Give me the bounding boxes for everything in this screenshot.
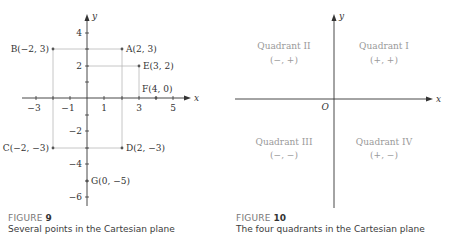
svg-text:1: 1 — [101, 103, 107, 113]
figure-10-caption: FIGURE 10 The four quadrants in the Cart… — [236, 213, 425, 235]
y-axis-label: y — [338, 11, 345, 21]
points — [52, 48, 158, 183]
point-a — [121, 48, 124, 51]
point-b — [52, 48, 55, 51]
svg-text:2: 2 — [76, 61, 82, 71]
svg-text:3: 3 — [136, 103, 142, 113]
point-d — [121, 147, 124, 150]
svg-text:−3: −3 — [27, 103, 41, 113]
quadrant-4-name: Quadrant IV — [356, 137, 413, 147]
svg-text:4: 4 — [76, 28, 82, 38]
figure-label: FIGURE — [8, 213, 43, 223]
y-tick-labels: 4 2 −2 −4 −6 — [69, 28, 83, 202]
point-label-d: D(2, −3) — [126, 143, 165, 153]
svg-text:−6: −6 — [69, 192, 83, 202]
origin-label: O — [322, 102, 330, 112]
quadrant-2-name: Quadrant II — [257, 41, 311, 51]
x-axis-label: x — [194, 93, 199, 103]
y-axis-arrow-icon — [332, 14, 337, 21]
quadrant-1-name: Quadrant I — [359, 41, 409, 51]
guide-lines — [53, 49, 139, 148]
quadrant-4-signs: (+, −) — [370, 150, 398, 160]
svg-text:−4: −4 — [69, 159, 83, 169]
point-c — [52, 147, 55, 150]
point-f — [155, 97, 158, 100]
figure-9-plot: x y −3 −1 1 3 5 — [3, 11, 199, 206]
quadrant-1-signs: (+, +) — [370, 55, 398, 65]
x-axis-label: x — [436, 94, 441, 104]
figure-number: 10 — [273, 213, 286, 223]
y-axis-label: y — [91, 11, 98, 21]
point-label-a: A(2, 3) — [125, 44, 157, 54]
point-label-f: F(4, 0) — [142, 84, 172, 94]
figure-number: 9 — [45, 213, 51, 223]
point-label-e: E(3, 2) — [143, 61, 174, 71]
quadrant-3-name: Quadrant III — [256, 137, 313, 147]
figure-label: FIGURE — [236, 213, 271, 223]
point-label-g: G(0, −5) — [91, 176, 130, 186]
x-axis-arrow-icon — [426, 97, 433, 102]
diagram-canvas: x y −3 −1 1 3 5 — [0, 0, 451, 248]
point-g — [86, 180, 89, 183]
y-axis-arrow-icon — [85, 14, 90, 21]
point-e — [138, 65, 141, 68]
quadrant-3-signs: (−, −) — [270, 150, 298, 160]
figure-description: Several points in the Cartesian plane — [8, 224, 175, 235]
point-label-b: B(−2, 3) — [11, 44, 49, 54]
svg-text:−2: −2 — [69, 126, 82, 136]
svg-text:−1: −1 — [61, 103, 74, 113]
quadrant-2-signs: (−, +) — [270, 55, 298, 65]
svg-text:5: 5 — [170, 103, 176, 113]
figure-description: The four quadrants in the Cartesian plan… — [236, 224, 425, 235]
point-label-c: C(−2, −3) — [3, 143, 49, 153]
figure-10-plot: x y O Quadrant II (−, +) Quadrant I (+, … — [235, 11, 441, 208]
x-axis-arrow-icon — [184, 96, 191, 101]
x-tick-labels: −3 −1 1 3 5 — [27, 103, 176, 113]
figure-9-caption: FIGURE 9 Several points in the Cartesian… — [8, 213, 175, 235]
